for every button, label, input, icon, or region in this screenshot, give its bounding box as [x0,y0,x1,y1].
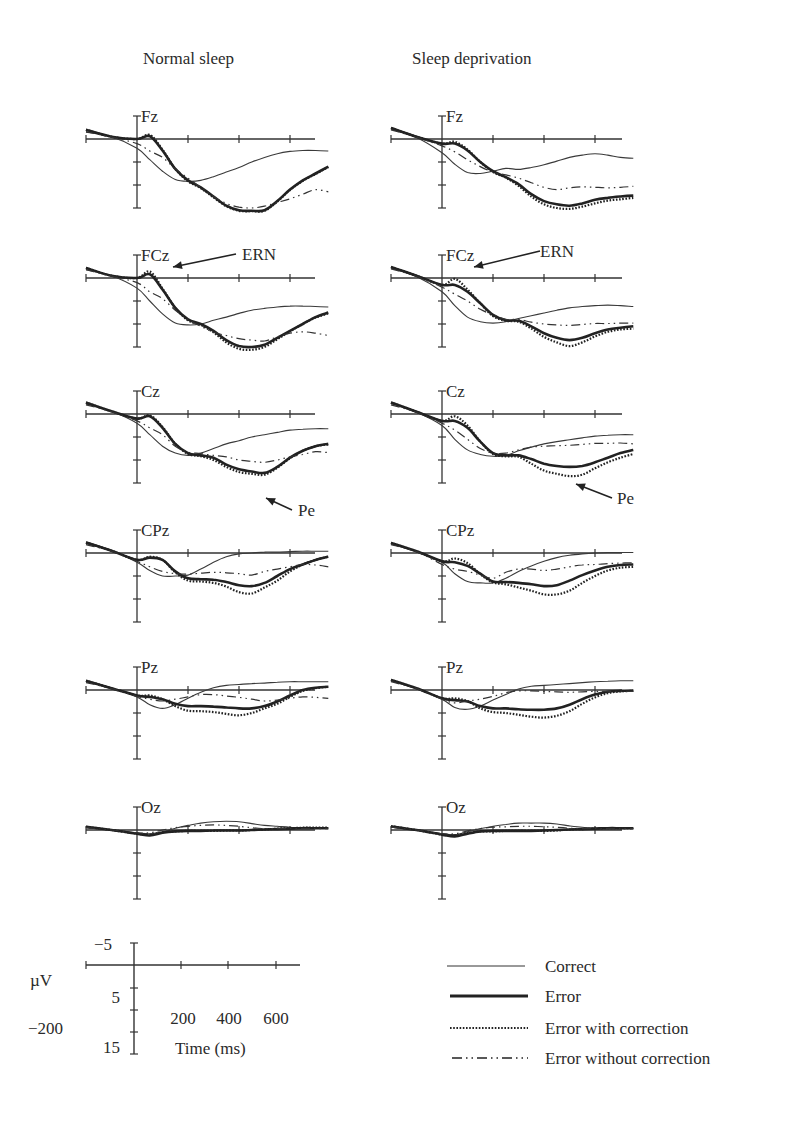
waveform-error-without-correction [391,682,633,703]
waveform-correct [86,404,328,456]
channel-label: CPz [141,521,170,540]
scale-time-label: Time (ms) [175,1039,246,1058]
panel-normal-fz: Fz [86,107,328,212]
pe-arrow-deprived [576,484,612,498]
ern-label-deprived: ERN [540,242,574,261]
panel-normal-oz: Oz [86,798,328,899]
arrowhead-icon [173,261,183,269]
component-annotations: ERNERNPePe [173,242,634,520]
waveform-correct [391,544,633,584]
scale-y-label-5: 5 [112,988,121,1007]
panel-normal-pz: Pz [86,658,328,759]
channel-label: Cz [446,382,465,401]
arrow-shaft [474,251,540,267]
legend-label-error: Error [545,987,581,1006]
legend-label-error-without-correction: Error without correction [545,1049,711,1068]
waveform-error [86,130,328,211]
panel-deprived-fz: Fz [391,107,633,209]
panel-deprived-pz: Pz [391,658,633,759]
legend-label-error-with-correction: Error with correction [545,1019,689,1038]
channel-label: CPz [446,521,475,540]
waveform-correct [86,544,328,577]
arrow-shaft [173,254,236,267]
legend-item-correct: Correct [447,957,596,976]
waveform-error [391,543,633,586]
waveform-correct [391,129,633,174]
scale-bar: −5 µV 5 −200 15 200 400 600 Time (ms) [28,935,300,1058]
ern-arrow-deprived [474,251,540,269]
waveform-error-without-correction [391,545,633,579]
waveform-correct [391,403,633,456]
waveform-error [86,542,328,586]
waveform-error-without-correction [86,132,328,208]
legend-label-correct: Correct [545,957,596,976]
arrowhead-icon [576,484,586,491]
channel-label: Fz [446,107,463,126]
waveform-correct [391,268,633,323]
waveform-error [391,128,633,206]
waveform-error-with-correction [86,130,328,212]
panel-deprived-fcz: FCz [391,246,633,347]
waveform-error-with-correction [391,680,633,718]
panel-normal-cz: Cz [86,382,328,483]
waveform-error-without-correction [391,269,633,326]
channel-label: FCz [446,246,475,265]
arrowhead-icon [474,261,484,269]
ern-label-normal: ERN [242,245,276,264]
channel-label: Oz [446,798,466,817]
legend-item-error-without-correction: Error without correction [452,1049,711,1068]
legend: Correct Error Error with correction Erro… [447,957,711,1068]
panel-deprived-cz: Cz [391,382,633,483]
column-titles: Normal sleep Sleep deprivation [143,49,532,68]
column-title-sleep-deprivation: Sleep deprivation [412,49,532,68]
waveform-error-with-correction [86,681,328,716]
legend-item-error-with-correction: Error with correction [450,1019,689,1038]
pe-arrow-normal [266,498,292,510]
column-title-normal-sleep: Normal sleep [143,49,234,68]
panel-normal-cpz: CPz [86,521,328,622]
channel-label: Pz [141,658,158,677]
erp-panels: FzFCzCzCPzPzOzFzFCzCzCPzPzOz [86,107,633,899]
panel-deprived-oz: Oz [391,798,633,899]
waveform-error-without-correction [86,545,328,575]
scale-x-label-600: 600 [263,1009,289,1028]
channel-label: FCz [141,246,170,265]
scale-x-label-400: 400 [216,1009,242,1028]
waveform-error [86,403,328,474]
panel-deprived-cpz: CPz [391,521,633,622]
pe-label-normal: Pe [298,501,315,520]
channel-label: Pz [446,658,463,677]
scale-y-label-neg5: −5 [94,935,112,954]
legend-item-error: Error [450,987,581,1006]
panel-normal-fcz: FCz [86,246,328,350]
scale-x-start-label: −200 [28,1019,63,1038]
waveform-error [391,680,633,710]
scale-x-label-200: 200 [170,1009,196,1028]
erp-figure: Normal sleep Sleep deprivation FzFCzCzCP… [0,0,810,1122]
waveform-error-without-correction [391,405,633,454]
scale-y-label-15: 15 [103,1038,120,1057]
channel-label: Fz [141,107,158,126]
pe-label-deprived: Pe [617,489,634,508]
channel-label: Cz [141,382,160,401]
waveform-error-without-correction [86,683,328,701]
channel-label: Oz [141,798,161,817]
ern-arrow-normal [173,254,236,269]
scale-unit-label: µV [30,971,53,990]
